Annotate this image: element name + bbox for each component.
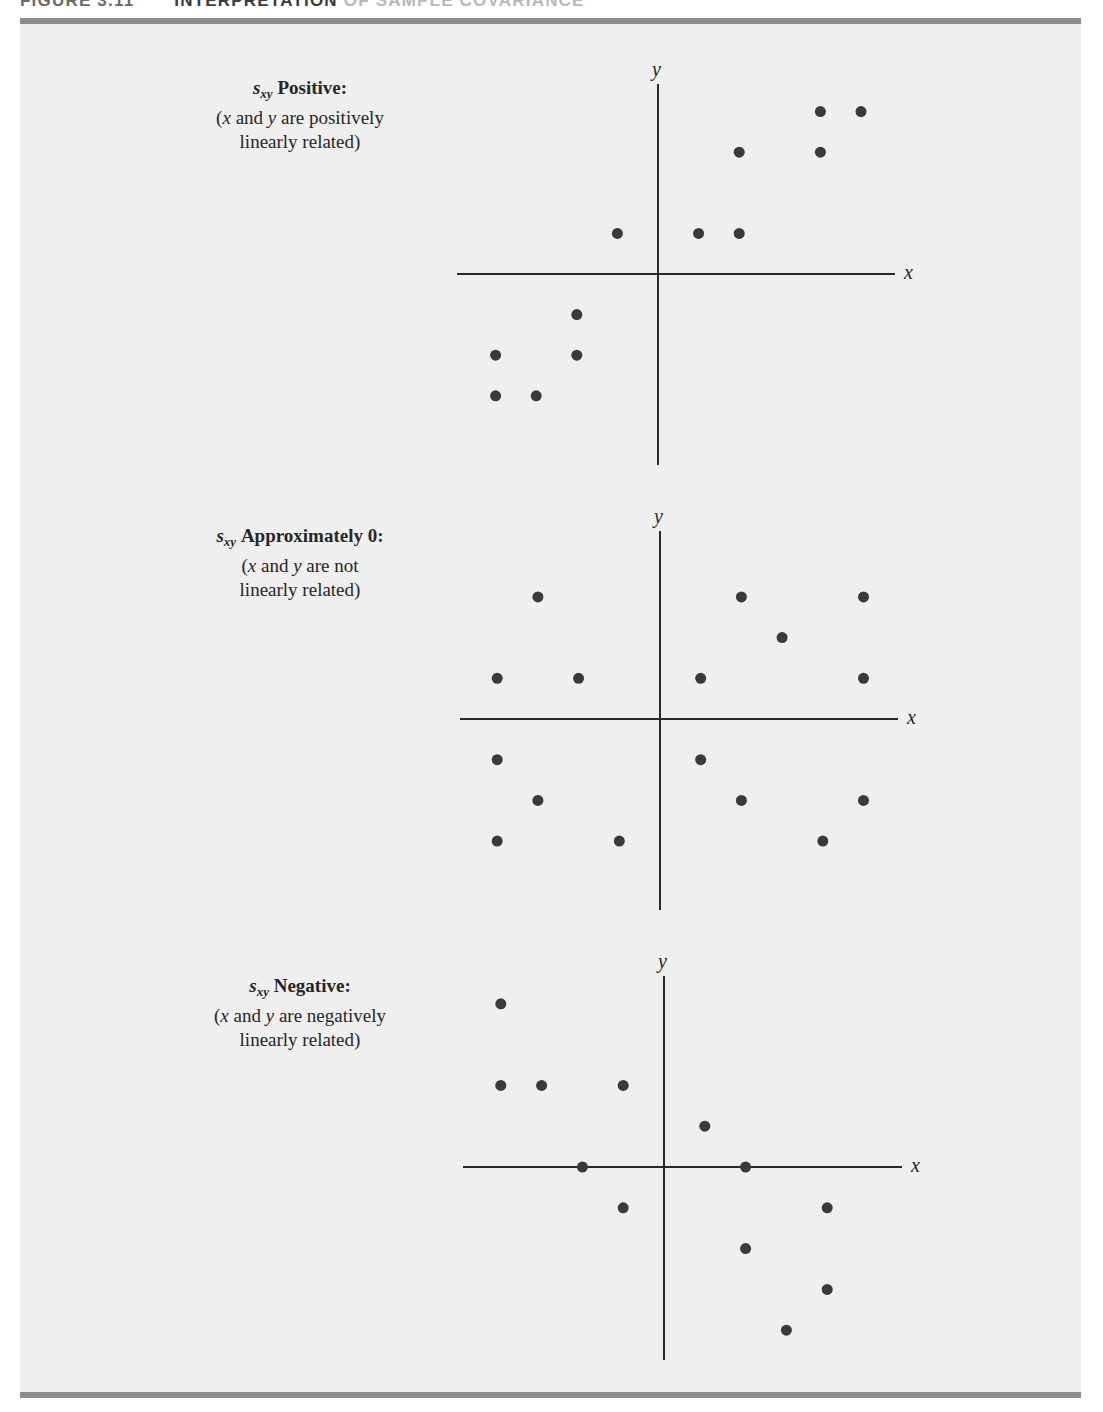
covariance-symbol: sxy (216, 525, 236, 546)
covariance-symbol: sxy (249, 975, 269, 996)
data-point (492, 673, 503, 684)
label-heading-text: Negative: (274, 975, 351, 996)
top-rule (20, 18, 1081, 24)
data-point (618, 1080, 629, 1091)
data-point (532, 591, 543, 602)
data-point (536, 1080, 547, 1091)
figure-title-main: INTERPRETATION (174, 0, 338, 10)
y-axis-label: y (650, 58, 661, 81)
label-heading: sxy Approximately 0: (150, 524, 450, 554)
scatter-plot-negative: xy (453, 946, 942, 1370)
data-point (492, 836, 503, 847)
figure-title-rest: OF SAMPLE COVARIANCE (338, 0, 585, 10)
figure-header: FIGURE 3.11INTERPRETATION OF SAMPLE COVA… (20, 0, 585, 11)
x-axis-label: x (906, 706, 916, 728)
scatter-plot-approximately-zero: xy (450, 501, 938, 920)
label-line-3: linearly related) (150, 1028, 450, 1052)
data-point (612, 228, 623, 239)
data-point (858, 673, 869, 684)
label-approximately-zero: sxy Approximately 0: (x and y are not li… (150, 524, 450, 602)
data-point (817, 836, 828, 847)
label-heading-text: Positive: (277, 77, 347, 98)
data-point (777, 632, 788, 643)
label-line-3: linearly related) (150, 578, 450, 602)
label-heading: sxy Negative: (150, 974, 450, 1004)
data-point (532, 795, 543, 806)
data-point (495, 998, 506, 1009)
data-point (822, 1284, 833, 1295)
label-line-2: (x and y are positively (150, 106, 450, 130)
data-point (490, 390, 501, 401)
bottom-rule (20, 1392, 1081, 1398)
data-point (734, 147, 745, 158)
label-line-3: linearly related) (150, 130, 450, 154)
x-axis-label: x (910, 1154, 920, 1176)
data-point (736, 795, 747, 806)
data-point (822, 1202, 833, 1213)
data-point (856, 106, 867, 117)
label-heading: sxy Positive: (150, 76, 450, 106)
data-point (571, 350, 582, 361)
scatter-svg: xy (453, 946, 942, 1370)
data-point (815, 106, 826, 117)
figure-number: FIGURE 3.11 (20, 0, 134, 10)
data-point (571, 309, 582, 320)
y-axis-label: y (652, 505, 663, 528)
y-axis-label: y (656, 950, 667, 973)
label-positive: sxy Positive: (x and y are positively li… (150, 76, 450, 154)
data-point (858, 591, 869, 602)
label-heading-text: Approximately 0: (241, 525, 384, 546)
label-negative: sxy Negative: (x and y are negatively li… (150, 974, 450, 1052)
data-point (781, 1325, 792, 1336)
label-line-2: (x and y are not (150, 554, 450, 578)
data-point (577, 1162, 588, 1173)
scatter-svg: xy (450, 501, 938, 920)
data-point (614, 836, 625, 847)
data-point (736, 591, 747, 602)
data-point (573, 673, 584, 684)
scatter-plot-positive: xy (447, 54, 935, 475)
data-point (734, 228, 745, 239)
label-line-2: (x and y are negatively (150, 1004, 450, 1028)
data-point (695, 754, 706, 765)
data-point (740, 1243, 751, 1254)
data-point (858, 795, 869, 806)
scatter-svg: xy (447, 54, 935, 475)
data-point (618, 1202, 629, 1213)
data-point (699, 1121, 710, 1132)
data-point (492, 754, 503, 765)
data-point (740, 1162, 751, 1173)
data-point (531, 390, 542, 401)
data-point (815, 147, 826, 158)
covariance-symbol: sxy (253, 77, 273, 98)
data-point (490, 350, 501, 361)
x-axis-label: x (903, 261, 913, 283)
data-point (693, 228, 704, 239)
data-point (695, 673, 706, 684)
data-point (495, 1080, 506, 1091)
